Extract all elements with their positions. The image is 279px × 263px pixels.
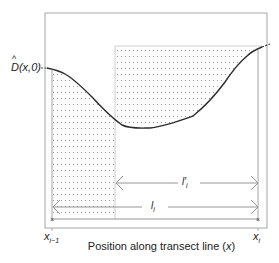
right-marker-x: × (256, 216, 260, 223)
upper-dotted-region (115, 46, 265, 131)
left-marker-x: × (50, 216, 54, 223)
y-axis-label: ^ D (x,0) (11, 61, 41, 73)
hat-glyph: ^ (12, 54, 16, 64)
x-axis-label-suffix: ) (232, 240, 236, 252)
y-label-args: (x,0) (19, 61, 41, 73)
y-label-symbol: ^ D (11, 61, 19, 73)
outer-interval-label: li (151, 200, 155, 213)
outer-interval-sub: i (153, 206, 155, 213)
diagram-svg: × × (0, 0, 279, 263)
left-dotted-region (52, 68, 115, 218)
inner-interval-label: l′i (182, 176, 188, 189)
curve-end-dash (262, 44, 270, 47)
x-axis-label: Position along transect line (x) (0, 240, 279, 252)
x-axis-label-prefix: Position along transect line ( (88, 240, 226, 252)
diagram-canvas: × × ^ D (x,0) l′i li xi−1 (0, 0, 279, 263)
inner-interval-sub: i (186, 182, 188, 189)
